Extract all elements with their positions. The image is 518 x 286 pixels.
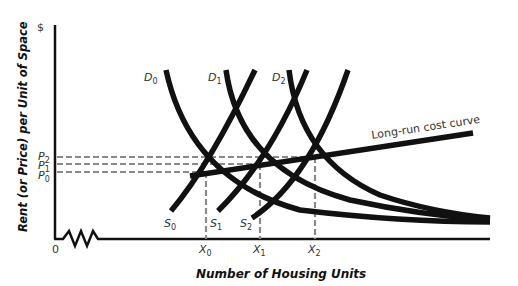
label-x1: X1 xyxy=(252,243,266,258)
label-s2: S2 xyxy=(240,217,252,232)
label-s0: S0 xyxy=(164,217,176,232)
y-axis-label: Rent (or Price) per Unit of Space xyxy=(16,21,30,232)
label-x0: X0 xyxy=(198,243,212,258)
y-axis-dollar-label: $ xyxy=(37,21,44,34)
label-s1: S1 xyxy=(210,217,222,232)
long-run-cost-curve xyxy=(190,133,473,176)
x-axis-label: Number of Housing Units xyxy=(196,267,366,281)
supply-curve-s0 xyxy=(171,70,255,211)
label-x2: X2 xyxy=(307,243,321,258)
origin-label: 0 xyxy=(52,243,59,256)
label-d0: D0 xyxy=(144,71,158,86)
label-d1: D1 xyxy=(208,71,222,86)
housing-market-diagram: Rent (or Price) per Unit of Space $ 0 D0… xyxy=(0,0,518,286)
x-axis-with-break xyxy=(54,231,490,246)
label-d2: D2 xyxy=(272,71,286,86)
